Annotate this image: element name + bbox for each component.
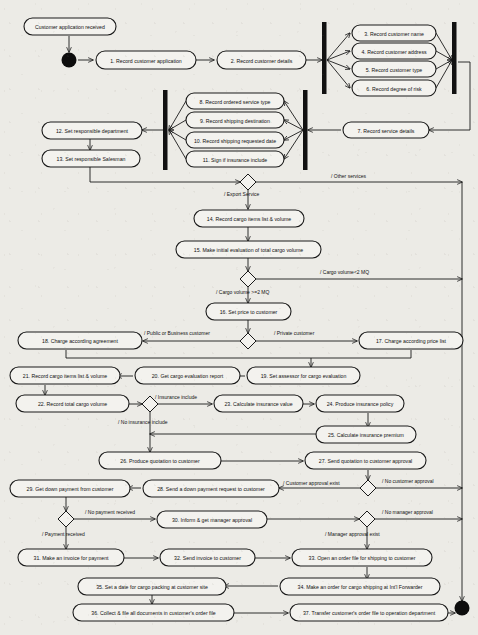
decision-customer-approval: [360, 480, 376, 496]
activity-label-a5: 5. Record customer type: [366, 67, 423, 73]
activity-node-a27[interactable]: 27. Send quotation to customer approval: [305, 452, 426, 469]
activity-node-a15[interactable]: 15. Make initial evaluation of total car…: [176, 241, 321, 258]
activity-node-a16[interactable]: 16. Set price to customer: [206, 303, 291, 320]
activity-label-a16: 16. Set price to customer: [220, 309, 278, 315]
decision-manager-approval: [359, 511, 375, 527]
edge-a17-merge: [311, 350, 411, 358]
final-node: [455, 601, 470, 616]
activity-node-a35[interactable]: 35. Set a date for cargo packing at cust…: [78, 578, 226, 595]
activity-node-a4[interactable]: 4. Record customer address: [352, 43, 436, 59]
decision-service-type: [240, 174, 256, 190]
activity-label-a8: 8. Record ordered service type: [200, 99, 271, 105]
guard-customer-approval: / Customer approval exist: [283, 480, 340, 486]
activity-label-a35: 35. Set a date for cargo packing at cust…: [96, 584, 208, 590]
activity-node-a24[interactable]: 24. Produce insurance policy: [316, 395, 404, 412]
activity-node-a7[interactable]: 7. Record service details: [343, 122, 429, 138]
start-note-label: Customer application received: [35, 24, 105, 30]
activity-node-a17[interactable]: 17. Charge according price list: [359, 332, 463, 349]
guard-no-customer-approval: / No customer approval: [382, 478, 434, 484]
activity-node-a30[interactable]: 30. Inform & get manager approval: [157, 511, 267, 528]
activity-node-a14[interactable]: 14. Record cargo items list & volume: [194, 210, 304, 227]
guard-public-business: / Public or Business customer: [144, 330, 210, 336]
activity-label-a36: 36. Collect & file all documents in cust…: [91, 610, 216, 616]
guard-no-manager-approval: / No manager approval: [382, 509, 433, 515]
activity-node-a3[interactable]: 3. Record customer name: [352, 25, 436, 41]
fork-bar-customer-details: [322, 22, 327, 94]
guard-volume-ge: / Cargo volume >=2 MQ: [216, 289, 269, 295]
edge-fork2-a8: [284, 101, 303, 130]
activity-label-a2: 2. Record customer details: [231, 58, 293, 64]
diagram-svg: Customer application received 1. Record …: [0, 0, 478, 635]
activity-label-a22: 22. Record total cargo volume: [38, 401, 107, 407]
activity-label-a24: 24. Produce insurance policy: [327, 401, 394, 407]
activity-label-a29: 29. Get down payment from customer: [27, 486, 114, 492]
activity-node-a19[interactable]: 19. Set assessor for cargo evaluation: [247, 367, 360, 384]
guard-private-customer: / Private customer: [274, 330, 315, 336]
activity-label-a21: 21. Record cargo items list & volume: [23, 373, 108, 379]
activity-label-a31: 31. Make an invoice for payment: [34, 555, 110, 561]
guard-export-service: / Export Service: [224, 191, 260, 197]
activity-label-a7: 7. Record service details: [358, 128, 415, 134]
activity-node-a11[interactable]: 11. Sign if insurance include: [186, 151, 284, 167]
guard-volume-lt: / Cargo volume<2 MQ: [320, 269, 369, 275]
activity-node-a29[interactable]: 29. Get down payment from customer: [10, 480, 130, 497]
activity-node-a31[interactable]: 31. Make an invoice for payment: [18, 549, 124, 566]
guard-other-services: / Other services: [331, 173, 367, 179]
activity-label-a6: 6. Record degree of risk: [366, 86, 422, 92]
decision-customer-type: [240, 333, 256, 349]
activity-node-a10[interactable]: 10. Record shipping requested date: [186, 132, 284, 148]
activity-node-a9[interactable]: 9. Record shipping destination: [186, 112, 284, 128]
activity-diagram-canvas: Customer application received 1. Record …: [0, 0, 478, 635]
decision-cargo-volume: [240, 271, 256, 287]
activity-node-a6[interactable]: 6. Record degree of risk: [352, 80, 436, 96]
join-bar-service-details: [163, 90, 168, 170]
activity-label-a30: 30. Inform & get manager approval: [172, 517, 252, 523]
decision-payment: [58, 511, 74, 527]
activity-node-a2[interactable]: 2. Record customer details: [217, 51, 306, 69]
activity-node-a21[interactable]: 21. Record cargo items list & volume: [10, 367, 120, 384]
activity-label-a13: 13. Set responsible Salesman: [57, 156, 126, 162]
activity-label-a23: 23. Calculate insurance value: [224, 401, 292, 407]
edge-a11-join2: [169, 130, 186, 159]
activity-label-a34: 34. Make an order for cargo shipping at …: [298, 584, 423, 590]
activity-node-a13[interactable]: 13. Set responsible Salesman: [42, 150, 140, 167]
activity-label-a14: 14. Record cargo items list & volume: [207, 216, 292, 222]
edge-a8-join2: [169, 101, 186, 130]
activity-label-a18: 18. Charge according agreement: [42, 338, 118, 344]
edge-a18-merge: [66, 350, 311, 358]
activity-label-a15: 15. Make initial evaluation of total car…: [194, 247, 303, 253]
activity-label-a26: 26. Produce quotation to customer: [120, 458, 200, 464]
activity-node-a36[interactable]: 36. Collect & file all documents in cust…: [73, 604, 234, 621]
activity-node-a28[interactable]: 28. Send a down payment request to custo…: [143, 480, 279, 497]
activity-node-a8[interactable]: 8. Record ordered service type: [186, 93, 284, 109]
guard-payment-received: / Payment received: [42, 531, 85, 537]
activity-node-a18[interactable]: 18. Charge according agreement: [18, 332, 142, 349]
activity-node-a1[interactable]: 1. Record customer application: [96, 51, 196, 69]
activity-node-a20[interactable]: 20. Get cargo evaluation report: [135, 367, 240, 384]
activity-label-a37: 37. Transfer customer's order file to op…: [303, 610, 436, 616]
activity-label-a32: 32. Send invoice to customer: [174, 555, 241, 561]
activity-label-a20: 20. Get cargo evaluation report: [152, 373, 224, 379]
activity-node-a37[interactable]: 37. Transfer customer's order file to op…: [290, 604, 448, 621]
activity-node-a32[interactable]: 32. Send invoice to customer: [160, 549, 255, 566]
guard-no-insurance: / No insurance include: [118, 419, 168, 425]
activity-label-a25: 25. Calculate insurance premium: [328, 432, 404, 438]
activity-node-a25[interactable]: 25. Calculate insurance premium: [316, 426, 416, 443]
activity-label-a1: 1. Record customer application: [110, 58, 182, 64]
activity-node-a5[interactable]: 5. Record customer type: [352, 61, 436, 77]
activity-label-a3: 3. Record customer name: [364, 31, 424, 37]
activity-node-a33[interactable]: 33. Open an order file for shipping to c…: [292, 549, 432, 566]
activity-label-a9: 9. Record shipping destination: [200, 118, 270, 124]
guard-insurance-include: / Insurance include: [155, 394, 197, 400]
activity-label-a17: 17. Charge according price list: [376, 338, 447, 344]
activity-node-a23[interactable]: 23. Calculate insurance value: [214, 395, 303, 412]
activity-node-a12[interactable]: 12. Set responsible department: [42, 122, 142, 139]
activity-node-a34[interactable]: 34. Make an order for cargo shipping at …: [280, 578, 440, 595]
guard-no-payment: / No payment received: [85, 509, 135, 515]
activity-label-a27: 27. Send quotation to customer approval: [319, 458, 412, 464]
activity-label-a12: 12. Set responsible department: [56, 128, 129, 134]
activity-node-a22[interactable]: 22. Record total cargo volume: [16, 395, 129, 412]
activity-label-a33: 33. Open an order file for shipping to c…: [309, 555, 416, 561]
start-note: Customer application received: [24, 18, 116, 35]
activity-node-a26[interactable]: 26. Produce quotation to customer: [99, 452, 221, 469]
